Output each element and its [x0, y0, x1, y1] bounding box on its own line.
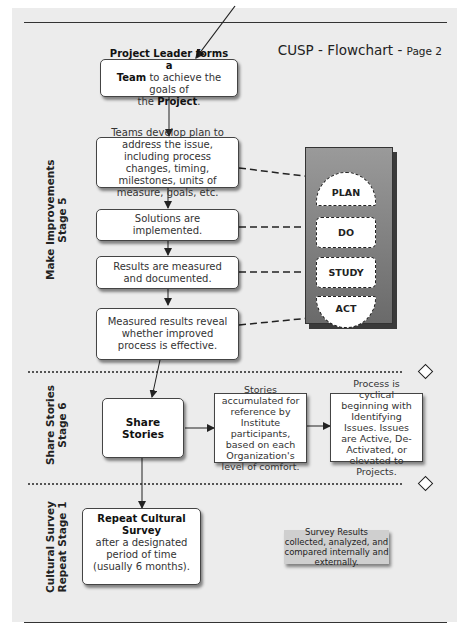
stage-label-cultural-survey: Cultural Survey Repeat Stage 1	[44, 500, 68, 594]
repeat-survey-title: Repeat Cultural Survey	[97, 513, 185, 536]
repeat-survey-box: Repeat Cultural Survey after a designate…	[82, 508, 201, 585]
plan-label: PLAN	[332, 187, 360, 198]
measured-results-text: Measured results reveal whether improved…	[101, 316, 234, 352]
repeat-survey-detail: after a designated period of time (usual…	[93, 537, 190, 572]
survey-results-text: Survey Results collected, analyzed, and …	[284, 527, 389, 567]
do-label: DO	[338, 227, 354, 238]
bottom-rule	[24, 622, 447, 623]
stories-accumulated-text: Stories accumulated for reference by Ins…	[219, 384, 302, 472]
pdca-do: DO	[316, 217, 376, 248]
process-cyclical-text: Process is cyclical beginning with Ident…	[335, 378, 418, 477]
stage-divider	[28, 483, 402, 485]
teams-develop-plan-text: Teams develop plan to address the issue,…	[101, 127, 234, 199]
stories-accumulated-box: Stories accumulated for reference by Ins…	[214, 393, 307, 463]
project-leader-text: Project Leader forms a Team to achieve t…	[105, 48, 233, 108]
act-label: ACT	[336, 303, 357, 314]
stage-label-share-stories: Share Stories Stage 6	[44, 383, 68, 467]
stage-label-make-improvements: Make Improvements Stage 5	[44, 160, 68, 280]
measured-results-box: Measured results reveal whether improved…	[96, 308, 239, 360]
pdca-plan: PLAN	[316, 172, 376, 206]
share-stories-box: Share Stories	[102, 398, 184, 458]
survey-results-note: Survey Results collected, analyzed, and …	[284, 530, 389, 564]
project-leader-box: Project Leader forms a Team to achieve t…	[100, 59, 238, 97]
top-rule	[24, 22, 447, 23]
results-measured-text: Results are measured and documented.	[101, 261, 234, 285]
stage-number: Stage 6	[56, 383, 68, 467]
stage-divider	[28, 371, 402, 373]
teams-develop-plan-box: Teams develop plan to address the issue,…	[96, 137, 239, 188]
share-stories-text: Share Stories	[107, 416, 179, 440]
stage-title: Cultural Survey	[44, 500, 56, 594]
page-title: CUSP - Flowchart - Page 2	[278, 42, 442, 58]
title-text: CUSP - Flowchart -	[278, 42, 407, 58]
solutions-implemented-box: Solutions are implemented.	[96, 209, 239, 241]
stage-title: Make Improvements	[44, 160, 56, 280]
pdca-act: ACT	[316, 296, 376, 328]
process-cyclical-box: Process is cyclical beginning with Ident…	[330, 393, 423, 462]
pdca-study: STUDY	[316, 257, 376, 288]
stage-number: Repeat Stage 1	[56, 500, 68, 594]
stage-number: Stage 5	[56, 160, 68, 280]
stage-title: Share Stories	[44, 383, 56, 467]
study-label: STUDY	[328, 267, 363, 278]
results-measured-box: Results are measured and documented.	[96, 256, 239, 289]
repeat-survey-text: Repeat Cultural Survey after a designate…	[87, 513, 196, 573]
page-number: Page 2	[407, 45, 442, 57]
pdca-panel: PLAN DO STUDY ACT	[305, 147, 393, 324]
solutions-implemented-text: Solutions are implemented.	[101, 213, 234, 237]
